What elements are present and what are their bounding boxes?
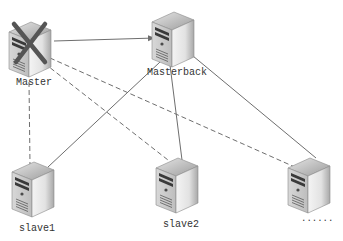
label-master: Master [16,77,52,88]
server-icon [156,158,198,213]
label-masterback: Masterback [147,67,207,78]
edge-masterback-slave1 [48,62,160,167]
label-slave1: slave1 [19,223,55,234]
node-masterback[interactable] [152,12,194,67]
node-master[interactable] [9,22,51,77]
diagram-canvas [0,0,343,241]
edge-master-masterback [54,38,155,41]
server-icon [288,158,330,213]
node-slave1[interactable] [12,162,54,217]
server-icon [9,22,51,77]
server-icon [12,162,54,217]
server-icon [152,12,194,67]
label-slave3: ...... [301,214,333,224]
edge-master-slave1 [29,82,30,165]
node-slave3[interactable] [288,158,330,213]
node-slave2[interactable] [156,158,198,213]
label-slave2: slave2 [163,219,199,230]
edge-masterback-slave2 [170,65,182,160]
edge-masterback-slave3 [193,56,316,158]
